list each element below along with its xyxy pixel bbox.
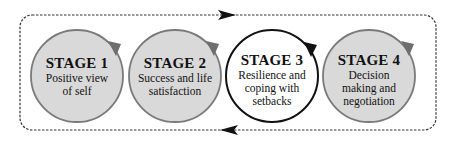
- stage-desc-line: of self: [31, 85, 123, 98]
- stage-desc-line: negotiation: [323, 95, 415, 108]
- stage-desc-line: satisfaction: [129, 85, 221, 98]
- stage-title: STAGE 4: [323, 52, 415, 68]
- stage-desc-line: setbacks: [226, 95, 318, 108]
- stage-description: Positive view of self: [31, 72, 123, 98]
- stage-desc-line: Decision: [323, 69, 415, 82]
- stage-title: STAGE 1: [31, 55, 123, 71]
- stage-desc-line: Success and life: [129, 72, 221, 85]
- stage-description: Resilience and coping with setbacks: [226, 69, 318, 108]
- stage-description: Decision making and negotiation: [323, 69, 415, 108]
- stage-3-label: STAGE 3 Resilience and coping with setba…: [226, 52, 318, 108]
- stage-4-label: STAGE 4 Decision making and negotiation: [323, 52, 415, 108]
- stage-title: STAGE 2: [129, 55, 221, 71]
- stage-2-label: STAGE 2 Success and life satisfaction: [129, 55, 221, 98]
- stage-desc-line: Positive view: [31, 72, 123, 85]
- stage-1-label: STAGE 1 Positive view of self: [31, 55, 123, 98]
- stage-title: STAGE 3: [226, 52, 318, 68]
- stage-description: Success and life satisfaction: [129, 72, 221, 98]
- stage-desc-line: Resilience and: [226, 69, 318, 82]
- stage-desc-line: coping with: [226, 82, 318, 95]
- stage-desc-line: making and: [323, 82, 415, 95]
